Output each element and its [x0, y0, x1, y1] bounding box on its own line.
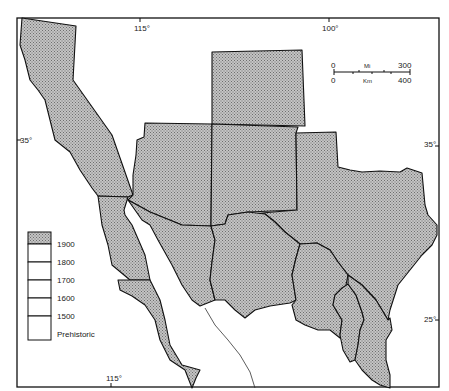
- scale-km-unit: Km: [363, 78, 372, 84]
- legend-swatch-1600: [28, 280, 51, 298]
- legend-swatch-1500: [28, 298, 51, 316]
- label-lat-25-right: 25°: [424, 315, 436, 324]
- label-lat-35-left: 35°: [20, 136, 32, 145]
- scale-bar: 0 Mi 300 0 Km 400: [331, 61, 412, 85]
- label-lon-115-bottom: 115°: [106, 374, 122, 383]
- region-california: [20, 18, 133, 197]
- scale-mi-unit: Mi: [364, 63, 370, 69]
- legend-label-1700: 1700: [57, 276, 75, 285]
- region-colorado: [212, 50, 305, 126]
- legend-swatch-1900: [28, 232, 51, 244]
- label-lon-100-top: 100°: [322, 24, 339, 33]
- legend-label-1600: 1600: [57, 294, 75, 303]
- region-baja-south: [118, 280, 200, 388]
- legend-label-1500: 1500: [57, 312, 75, 321]
- scale-km-end: 400: [398, 76, 412, 85]
- legend-swatch-prehistoric: [28, 316, 51, 340]
- map-canvas: 115° 100° 35° 35° 25° 115° 0 Mi 300 0 Km…: [0, 0, 449, 391]
- legend-swatch-1700: [28, 262, 51, 280]
- legend-label-1900: 1900: [57, 240, 75, 249]
- label-lat-35-right: 35°: [424, 140, 436, 149]
- scale-mi-start: 0: [331, 61, 336, 70]
- label-lon-115-top: 115°: [134, 24, 150, 33]
- legend-label-prehistoric: Prehistoric: [57, 330, 95, 339]
- river-line: [205, 308, 255, 388]
- scale-km-start: 0: [331, 76, 336, 85]
- legend-swatch-1800: [28, 244, 51, 262]
- legend: 1900 1800 1700 1600 1500 Prehistoric: [28, 232, 95, 340]
- scale-mi-end: 300: [398, 61, 412, 70]
- legend-label-1800: 1800: [57, 258, 75, 267]
